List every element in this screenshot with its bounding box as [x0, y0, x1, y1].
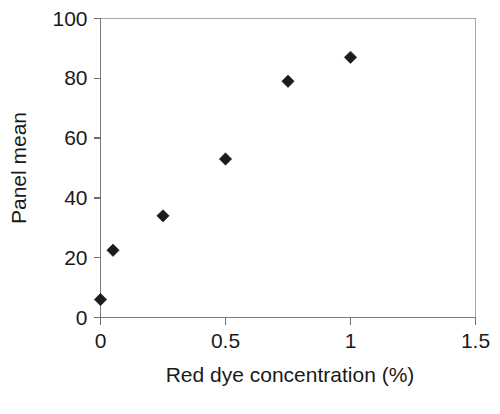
- data-point-marker: [344, 51, 356, 63]
- x-tick-label: 0.5: [211, 329, 240, 352]
- data-point-marker: [282, 75, 294, 87]
- scatter-plot: 020406080100 00.511.5 Red dye concentrat…: [0, 0, 500, 414]
- y-axis-ticks: 020406080100: [52, 7, 100, 329]
- data-point-marker: [107, 244, 119, 256]
- x-tick-label: 0: [95, 329, 107, 352]
- x-tick-label: 1.5: [461, 329, 490, 352]
- x-axis-title: Red dye concentration (%): [166, 363, 415, 386]
- x-axis-ticks: 00.511.5: [95, 318, 490, 352]
- chart-figure: 020406080100 00.511.5 Red dye concentrat…: [0, 0, 500, 414]
- y-axis-title: Panel mean: [7, 112, 30, 224]
- y-tick-label: 20: [64, 246, 87, 269]
- data-point-marker: [157, 210, 169, 222]
- data-point-series: [94, 51, 356, 306]
- y-tick-label: 80: [64, 66, 87, 89]
- data-point-marker: [94, 293, 106, 305]
- plot-axes: [101, 19, 476, 318]
- data-point-marker: [219, 153, 231, 165]
- plot-frame: [101, 19, 476, 318]
- y-tick-label: 40: [64, 186, 87, 209]
- y-tick-label: 0: [76, 306, 88, 329]
- y-tick-label: 60: [64, 126, 87, 149]
- y-tick-label: 100: [52, 7, 87, 30]
- x-tick-label: 1: [345, 329, 357, 352]
